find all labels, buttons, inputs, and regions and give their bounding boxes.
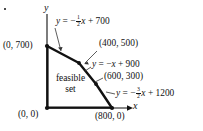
eq1-operator: + [88, 16, 93, 26]
vertex-dot-800-0 [110, 106, 114, 110]
equation-label-line-1: y = −12x + 700 [56, 15, 110, 28]
eq2-lhs: y [92, 59, 96, 69]
equation-label-line-2: y = −x + 900 [92, 60, 140, 69]
eq2-variable: x [111, 59, 115, 69]
x-axis-label: x [133, 101, 137, 111]
eq2-equals: = [99, 59, 104, 69]
leader-line-600-300 [95, 78, 103, 82]
y-axis-label: y [44, 3, 48, 13]
point-label-0-0: (0, 0) [18, 110, 38, 119]
eq1-variable: x [81, 16, 85, 26]
point-label-0-700: (0, 700) [3, 41, 33, 50]
vertex-dot-0-0 [45, 106, 49, 110]
equation-label-line-3: y = −32x + 1200 [116, 87, 174, 100]
feasible-set-line-2: set [65, 84, 75, 94]
leader-arrow-eq1 [58, 47, 63, 51]
eq3-variable: x [141, 88, 145, 98]
point-label-600-300: (600, 300) [104, 72, 143, 81]
eq1-equals: = [63, 16, 68, 26]
eq2-operator: + [118, 59, 123, 69]
point-label-800-0: (800, 0) [95, 112, 125, 121]
leader-line-eq3 [106, 92, 115, 94]
vertex-dot-600-300 [94, 82, 98, 86]
eq3-sign: − [130, 88, 135, 98]
eq1-lhs: y [56, 16, 60, 26]
feasible-set-line-1: feasible [56, 73, 85, 83]
point-label-400-500: (400, 500) [99, 39, 138, 48]
eq2-intercept: 900 [126, 59, 140, 69]
eq3-equals: = [123, 88, 128, 98]
eq3-operator: + [148, 88, 153, 98]
eq1-sign: − [70, 16, 75, 26]
leader-line-eq2 [85, 67, 91, 71]
vertex-dot-400-500 [77, 61, 81, 65]
constraint-segment-1 [47, 46, 79, 63]
eq3-intercept: 1200 [156, 88, 175, 98]
vertex-dot-0-700 [45, 44, 49, 48]
eq3-lhs: y [116, 88, 120, 98]
feasible-set-caption: feasible set [47, 73, 94, 96]
constraint-segment-3 [96, 84, 112, 108]
eq1-intercept: 700 [96, 16, 110, 26]
